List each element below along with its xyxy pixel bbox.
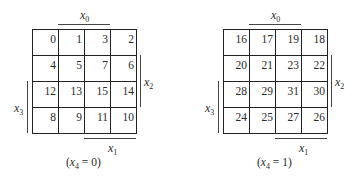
kmap-cell: 0 [33, 30, 59, 56]
x1-label: x1 [299, 141, 308, 157]
kmap-cell: 4 [33, 56, 59, 82]
kmap-cell: 26 [302, 108, 328, 134]
kmap-cell: 25 [250, 108, 276, 134]
x0-label: x0 [271, 8, 280, 24]
x0-label: x0 [80, 8, 89, 24]
kmap-cell: 21 [250, 56, 276, 82]
kmap-cell: 10 [111, 108, 137, 134]
kmap-row: 28293130 [224, 82, 328, 108]
kmap-cell: 6 [111, 56, 137, 82]
kmap-cell: 5 [59, 56, 85, 82]
kmap-cell: 27 [276, 108, 302, 134]
kmap-cell: 1 [59, 30, 85, 56]
kmap-cell: 23 [276, 56, 302, 82]
kmap-cell: 3 [85, 30, 111, 56]
kmap-cell: 20 [224, 56, 250, 82]
kmap-cell: 22 [302, 56, 328, 82]
x1-bar [275, 138, 327, 139]
kmap-cell: 13 [59, 82, 85, 108]
kmap-grid: 0132457612131514891110 [32, 29, 137, 134]
kmap-cell: 11 [85, 108, 111, 134]
kmap-row: 16171918 [224, 30, 328, 56]
kmap-cell: 12 [33, 82, 59, 108]
kmap-cell: 9 [59, 108, 85, 134]
karnaugh-map-0: 0132457612131514891110x0x1x2x3(x4 = 0) [0, 0, 180, 182]
kmap-caption: (x4 = 0) [66, 156, 101, 171]
x0-bar [249, 24, 301, 25]
x1-label: x1 [108, 141, 117, 157]
x0-bar [58, 24, 110, 25]
kmap-cell: 7 [85, 56, 111, 82]
x2-label: x2 [144, 75, 153, 91]
x1-bar [84, 138, 136, 139]
kmap-row: 4576 [33, 56, 137, 82]
kmap-cell: 19 [276, 30, 302, 56]
x3-bar [218, 81, 219, 133]
kmap-row: 20212322 [224, 56, 328, 82]
kmap-cell: 31 [276, 82, 302, 108]
kmap-row: 24252726 [224, 108, 328, 134]
kmap-cell: 28 [224, 82, 250, 108]
kmap-row: 0132 [33, 30, 137, 56]
x2-bar [331, 55, 332, 107]
kmap-cell: 30 [302, 82, 328, 108]
x2-label: x2 [335, 75, 344, 91]
kmap-caption: (x4 = 1) [257, 156, 292, 171]
karnaugh-map-1: 16171918202123222829313024252726x0x1x2x3… [180, 0, 360, 182]
kmap-cell: 24 [224, 108, 250, 134]
kmap-cell: 17 [250, 30, 276, 56]
x3-bar [27, 81, 28, 133]
kmap-cell: 16 [224, 30, 250, 56]
kmap-row: 12131514 [33, 82, 137, 108]
x2-bar [140, 55, 141, 107]
kmap-cell: 8 [33, 108, 59, 134]
kmap-cell: 18 [302, 30, 328, 56]
kmap-grid: 16171918202123222829313024252726 [223, 29, 328, 134]
kmap-cell: 2 [111, 30, 137, 56]
x3-label: x3 [205, 101, 214, 117]
kmap-cell: 15 [85, 82, 111, 108]
kmap-cell: 14 [111, 82, 137, 108]
x3-label: x3 [14, 101, 23, 117]
kmap-row: 891110 [33, 108, 137, 134]
kmap-cell: 29 [250, 82, 276, 108]
